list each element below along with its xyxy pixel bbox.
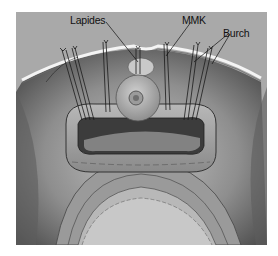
label-lapides: Lapides — [70, 14, 105, 26]
anatomy-illustration — [16, 12, 267, 245]
label-burch: Burch — [223, 27, 249, 39]
illustration-frame — [16, 12, 267, 245]
label-mmk: MMK — [182, 14, 206, 26]
bladder-neck — [128, 58, 154, 76]
